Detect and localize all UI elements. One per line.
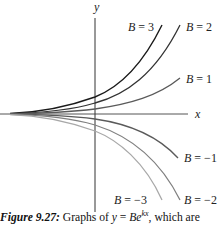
y-axis-label: y	[93, 0, 100, 14]
caption-figure-label: Figure 9.27:	[0, 211, 60, 224]
x-axis-label: x	[194, 107, 201, 121]
label-b3: B = 3	[128, 20, 154, 34]
caption-exponent: kx	[141, 209, 148, 218]
label-bm3: B = −3	[114, 193, 147, 207]
caption-text-after: , which are	[149, 211, 200, 224]
exponential-graphs-figure: x y B = 3 B = 2 B = 1 B = −1 B = −2 B = …	[0, 0, 224, 212]
curve-bm3	[10, 115, 162, 200]
figure-caption: Figure 9.27: Graphs of y = Bekx, which a…	[0, 209, 224, 224]
curve-bm1	[10, 114, 178, 158]
curve-b3	[10, 25, 162, 113]
label-bm2: B = −2	[184, 193, 217, 207]
label-bm1: B = −1	[184, 151, 217, 165]
caption-text-before: Graphs of	[60, 211, 112, 224]
label-b2: B = 2	[186, 20, 212, 34]
label-b1: B = 1	[186, 72, 212, 86]
caption-equals: =	[117, 211, 129, 224]
caption-math-base: Be	[129, 211, 141, 224]
